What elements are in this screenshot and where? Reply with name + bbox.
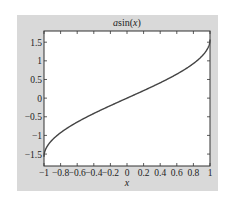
y-tick-label: −1 [32, 131, 42, 141]
x-tick-label: −0.4 [85, 168, 102, 178]
x-tick-label: 0.4 [154, 168, 166, 178]
y-tick-label: 0 [37, 94, 42, 104]
y-tick-label: −0.5 [25, 112, 42, 122]
asin-chart: −1.5−1−0.500.511.5 −1−0.8−0.6−0.4−0.200.… [0, 0, 228, 204]
x-tick-label: 0.2 [138, 168, 150, 178]
y-tick-label: 0.5 [30, 75, 42, 85]
chart-title: asin(x) [113, 17, 141, 29]
x-tick-label: −0.2 [102, 168, 119, 178]
y-tick-label: −1.5 [25, 150, 42, 160]
x-axis-label: x [124, 177, 130, 188]
x-tick-label: −0.8 [52, 168, 69, 178]
x-tick-label: −1 [39, 168, 49, 178]
x-tick-label: 0.8 [187, 168, 199, 178]
x-tick-label: 0.6 [171, 168, 183, 178]
y-tick-label: 1 [37, 56, 42, 66]
x-tick-label: 1 [208, 168, 213, 178]
x-tick-label: −0.6 [69, 168, 86, 178]
y-tick-label: 1.5 [30, 38, 42, 48]
